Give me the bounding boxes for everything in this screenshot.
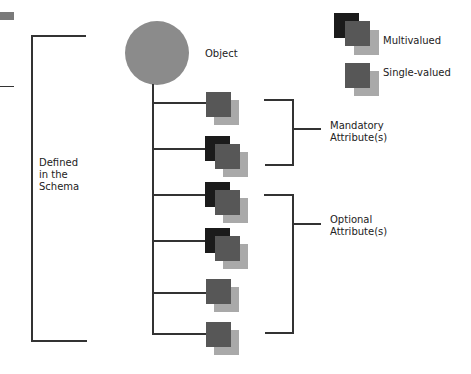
trunk-line (152, 84, 154, 335)
legend-middle-square (345, 21, 370, 46)
optional-label: Optional Attribute(s) (330, 214, 387, 238)
front-square (206, 322, 231, 347)
front-square (206, 92, 231, 117)
middle-square (215, 144, 240, 169)
mandatory-bracket-bottom (265, 164, 294, 166)
mandatory-bracket-vertical (292, 99, 294, 166)
optional-bracket-pointer (292, 223, 321, 225)
front-square (206, 279, 231, 304)
middle-square (215, 190, 240, 215)
connector (152, 148, 205, 150)
connector (152, 194, 205, 196)
partial-line (0, 86, 14, 87)
optional-bracket-top (264, 194, 294, 196)
schema-label: Defined in the Schema (39, 157, 79, 193)
mandatory-label: Mandatory Attribute(s) (330, 120, 387, 144)
schema-bracket-bottom (31, 340, 87, 342)
connector (152, 292, 206, 294)
mandatory-bracket-top (264, 99, 294, 101)
optional-bracket-vertical (292, 194, 294, 334)
schema-bracket-top (31, 35, 86, 37)
connector (152, 102, 206, 104)
middle-square (215, 236, 240, 261)
legend-multivalued-label: Multivalued (383, 35, 441, 47)
legend-front-square (345, 63, 370, 88)
object-label: Object (205, 48, 238, 60)
legend-single-valued-label: Single-valued (383, 67, 451, 79)
connector (152, 333, 206, 335)
partial-gray-bar (0, 12, 14, 20)
schema-bracket-vertical (31, 35, 33, 342)
object-circle (125, 21, 189, 85)
connector (152, 240, 205, 242)
optional-bracket-bottom (265, 332, 294, 334)
mandatory-bracket-pointer (292, 128, 321, 130)
